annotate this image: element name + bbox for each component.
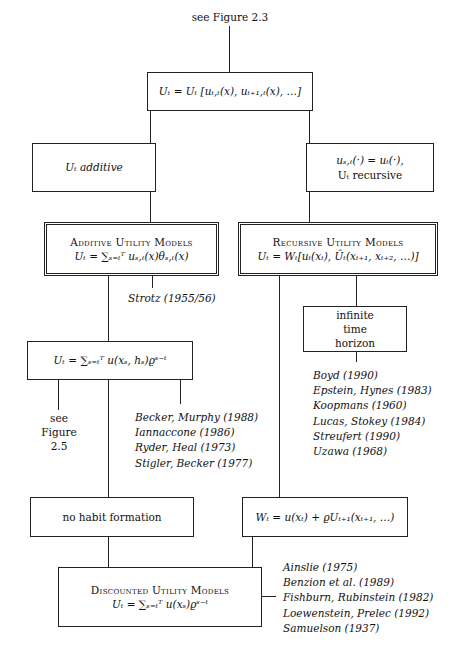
reference-item: Loewenstein, Prelec (1992) (283, 606, 433, 621)
reference-item: Samuelson (1937) (283, 621, 433, 636)
strotz-reference: Strotz (1955/56) (128, 291, 216, 306)
recursive-references: Boyd (1990) Epstein, Hynes (1983) Koopma… (313, 368, 432, 459)
time-line: time (343, 322, 367, 336)
w-recursion-box: Wₜ = u(xₜ) + ϱUₜ₊₁(xₜ₊₁, …) (242, 497, 408, 537)
connector-line (108, 380, 109, 507)
no-habit-text: no habit formation (62, 510, 161, 524)
root-formula: Uₜ = Uₜ [uₜ,ₜ(x), uₜ₊₁,ₜ(x), …] (159, 84, 301, 98)
root-utility-box: Uₜ = Uₜ [uₜ,ₜ(x), uₜ₊₁,ₜ(x), …] (147, 72, 313, 111)
additive-models-formula: Uₜ = ∑ₛ₌ₜᵀ uₛ,ₜ(x)θₛ,ₜ(x) (74, 249, 188, 263)
connector-line (58, 380, 59, 410)
recursive-models-title: Recursive Utility Models (273, 235, 404, 249)
connector-line (356, 352, 357, 362)
reference-item: Lucas, Stokey (1984) (313, 414, 432, 429)
reference-item: Koopmans (1960) (313, 398, 432, 413)
discounted-utility-models-box: Discounted Utility Models Uₜ = ∑ₛ₌ₜᵀ u(x… (58, 567, 262, 627)
habit-formation-box: Uₜ = ∑ₛ₌ₜᵀ u(xₛ, hₛ)ϱˢ⁻ᵗ (27, 341, 193, 380)
no-habit-formation-box: no habit formation (30, 497, 194, 537)
reference-item: Iannaccone (1986) (135, 425, 258, 440)
reference-item: Benzion et al. (1989) (283, 575, 433, 590)
w-formula: Wₜ = u(xₜ) + ϱUₜ₊₁(xₜ₊₁, …) (256, 510, 395, 524)
reference-item: Ryder, Heal (1973) (135, 440, 258, 455)
reference-item: Epstein, Hynes (1983) (313, 383, 432, 398)
connector-line (108, 537, 109, 567)
reference-item: Becker, Murphy (1988) (135, 410, 258, 425)
infinite-line: infinite (336, 308, 374, 322)
connector-line (108, 276, 109, 341)
connector-line (309, 192, 310, 222)
infinite-time-horizon-box: infinite time horizon (303, 306, 407, 352)
reference-item: Streufert (1990) (313, 429, 432, 444)
recursive-condition-line2: Uₜ recursive (338, 168, 403, 182)
connector-line (150, 111, 151, 143)
number-line: 2.5 (36, 439, 82, 453)
connector-line (150, 192, 151, 222)
reference-item: Stigler, Becker (1977) (135, 456, 258, 471)
additive-condition-box: Uₜ additive (32, 143, 156, 192)
connector-line (262, 596, 276, 597)
recursive-models-formula: Uₜ = Wₜ[uₜ(xₜ), Ûₜ(xₜ₊₁, xₜ₊₂, …)] (257, 249, 418, 263)
reference-item: Ainslie (1975) (283, 560, 433, 575)
habit-references: Becker, Murphy (1988) Iannaccone (1986) … (135, 410, 258, 471)
additive-models-title: Additive Utility Models (70, 235, 192, 249)
additive-utility-models-box: Additive Utility Models Uₜ = ∑ₛ₌ₜᵀ uₛ,ₜ(… (44, 222, 219, 276)
figure-line: Figure (36, 425, 82, 439)
discounted-references: Ainslie (1975) Benzion et al. (1989) Fis… (283, 560, 433, 636)
see-figure-2-3-note: see Figure 2.3 (185, 10, 275, 24)
habit-formula: Uₜ = ∑ₛ₌ₜᵀ u(xₛ, hₛ)ϱˢ⁻ᵗ (53, 353, 166, 367)
reference-item: Fishburn, Rubinstein (1982) (283, 590, 433, 605)
reference-item: Boyd (1990) (313, 368, 432, 383)
connector-line (229, 26, 230, 72)
horizon-line: horizon (335, 336, 375, 350)
reference-item: Uzawa (1968) (313, 444, 432, 459)
discounted-models-title: Discounted Utility Models (91, 583, 229, 597)
discounted-models-formula: Uₜ = ∑ₛ₌ₜᵀ u(xₛ)ϱˢ⁻ᵗ (112, 597, 208, 611)
connector-line (309, 111, 310, 143)
see-figure-2-5-note: see Figure 2.5 (36, 411, 82, 454)
recursive-utility-models-box: Recursive Utility Models Uₜ = Wₜ[uₜ(xₜ),… (238, 222, 438, 276)
see-line: see (36, 411, 82, 425)
recursive-condition-box: uₛ,ₜ(·) = uₜ(·), Uₜ recursive (306, 143, 434, 192)
connector-line (252, 537, 253, 567)
additive-condition-text: Uₜ additive (65, 160, 123, 174)
connector-line (279, 276, 280, 497)
connector-line (152, 276, 153, 288)
recursive-condition-line1: uₛ,ₜ(·) = uₜ(·), (336, 153, 403, 167)
connector-line (180, 380, 181, 404)
connector-line (356, 276, 357, 306)
